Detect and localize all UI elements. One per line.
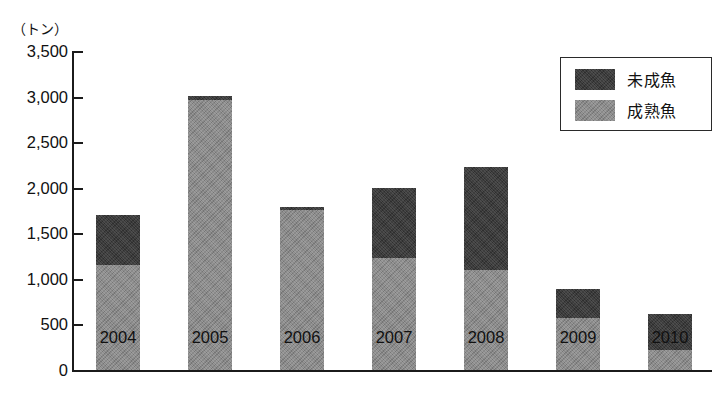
- y-axis-tick: [74, 97, 83, 99]
- bar-segment-immature: [96, 215, 140, 265]
- y-axis-tick: [74, 51, 83, 53]
- bar-segment-mature: [372, 258, 416, 370]
- chart-legend: 未成魚 成熟魚: [560, 57, 712, 131]
- y-axis-tick-label: 1,500: [27, 225, 68, 242]
- legend-swatch-immature: [575, 69, 615, 90]
- y-axis-tick: [74, 142, 83, 144]
- legend-label-immature: 未成魚: [627, 67, 677, 91]
- legend-item-immature: 未成魚: [575, 66, 677, 92]
- bar-segment-mature: [648, 350, 692, 370]
- stacked-bar-chart: （トン） 05001,0001,5002,0002,5003,0003,500 …: [0, 0, 723, 413]
- y-axis-tick: [74, 370, 83, 372]
- x-axis-tick-label: 2006: [262, 328, 342, 347]
- y-axis-tick: [74, 324, 83, 326]
- y-axis-tick-label: 1,000: [27, 271, 68, 288]
- x-axis-tick-label: 2008: [446, 328, 526, 347]
- bar-segment-immature: [464, 167, 508, 270]
- y-axis-tick-label: 0: [59, 362, 68, 379]
- bar-segment-immature: [372, 188, 416, 258]
- x-axis-tick-label: 2005: [170, 328, 250, 347]
- y-axis-tick-label: 3,000: [27, 88, 68, 105]
- x-axis-tick-label: 2009: [538, 328, 618, 347]
- bar-segment-immature: [556, 289, 600, 318]
- y-axis-tick-label: 3,500: [27, 43, 68, 60]
- y-axis-tick: [74, 279, 83, 281]
- x-axis-line: [72, 370, 712, 372]
- legend-swatch-mature: [575, 100, 615, 121]
- legend-item-mature: 成熟魚: [575, 97, 677, 123]
- legend-label-mature: 成熟魚: [627, 98, 677, 122]
- y-axis-tick-label: 2,000: [27, 179, 68, 196]
- y-axis-unit-label: （トン）: [12, 18, 68, 38]
- y-axis-tick: [74, 233, 83, 235]
- x-axis-tick-label: 2007: [354, 328, 434, 347]
- bar-segment-mature: [464, 270, 508, 370]
- y-axis-tick-label: 2,500: [27, 134, 68, 151]
- bar-segment-mature: [96, 265, 140, 370]
- y-axis-tick-label: 500: [40, 316, 68, 333]
- y-axis-tick: [74, 188, 83, 190]
- x-axis-tick-label: 2004: [78, 328, 158, 347]
- x-axis-tick-label: 2010: [630, 328, 710, 347]
- y-axis-line: [72, 51, 74, 371]
